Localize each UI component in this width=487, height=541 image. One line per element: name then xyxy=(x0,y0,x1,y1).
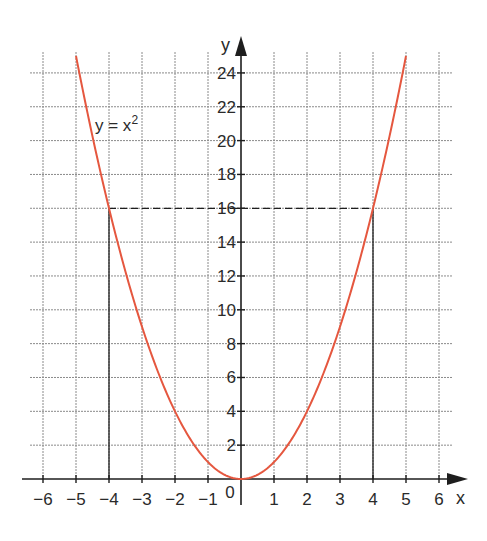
x-tick-label: −4 xyxy=(99,490,118,509)
parabola-chart: −6−5−4−3−2−1012345624681012141618202224 … xyxy=(0,0,487,541)
y-tick-label: 2 xyxy=(227,436,236,455)
x-tick-label: −2 xyxy=(165,490,184,509)
x-tick-label: 6 xyxy=(434,490,443,509)
y-axis-arrow-icon xyxy=(235,36,247,56)
y-tick-label: 24 xyxy=(217,64,236,83)
x-tick-label: 2 xyxy=(302,490,311,509)
y-tick-label: 14 xyxy=(217,233,236,252)
y-tick-label: 4 xyxy=(227,402,236,421)
x-tick-label: −3 xyxy=(132,490,151,509)
y-tick-label: 10 xyxy=(217,301,236,320)
y-tick-label: 18 xyxy=(217,165,236,184)
y-tick-label: 16 xyxy=(217,199,236,218)
y-tick-label: 8 xyxy=(227,335,236,354)
x-tick-label: 4 xyxy=(368,490,377,509)
x-tick-label: −5 xyxy=(66,490,85,509)
x-tick-label: 3 xyxy=(335,490,344,509)
x-tick-label: −1 xyxy=(198,490,217,509)
x-tick-label: 5 xyxy=(401,490,410,509)
y-tick-label: 20 xyxy=(217,132,236,151)
y-tick-label: 6 xyxy=(227,368,236,387)
y-tick-label: 22 xyxy=(217,98,236,117)
y-tick-label: 12 xyxy=(217,267,236,286)
x-axis-arrow-icon xyxy=(447,473,468,485)
curve-label: y = x2 xyxy=(95,113,138,135)
x-tick-label: 1 xyxy=(269,490,278,509)
x-tick-label: 0 xyxy=(225,483,234,502)
y-axis-label: y xyxy=(221,35,230,55)
x-tick-label: −6 xyxy=(33,490,52,509)
x-axis-label: x xyxy=(456,488,465,508)
